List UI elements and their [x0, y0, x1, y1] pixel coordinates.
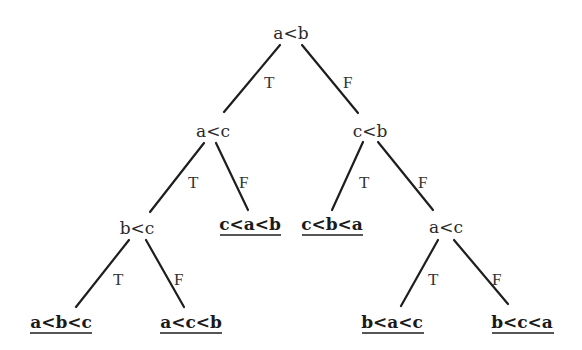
edge-label-f: F	[239, 173, 248, 192]
edge-label-f: F	[174, 270, 183, 289]
node-c-lt-b: c<b	[353, 121, 388, 141]
edge-label-t: T	[264, 73, 275, 92]
edge-label-f: F	[343, 73, 352, 92]
leaf-c-a-b: c<a<b	[219, 214, 281, 234]
leaf-a-c-b: a<c<b	[160, 312, 222, 332]
node-a-lt-c-right: a<c	[429, 217, 463, 237]
leaf-c-b-a: c<b<a	[301, 214, 363, 234]
node-b-lt-c: b<c	[120, 218, 155, 238]
edge-label-t: T	[359, 173, 370, 192]
leaf-a-b-c: a<b<c	[30, 312, 92, 332]
edge-label-t: T	[113, 270, 124, 289]
leaf-b-c-a: b<c<a	[491, 312, 553, 332]
leaf-b-a-c: b<a<c	[361, 312, 423, 332]
decision-tree-diagram: T F T F T F T F T F a<b a<c c<b b<c a<c …	[0, 0, 582, 350]
edge-label-f: F	[418, 173, 427, 192]
edges	[76, 45, 508, 307]
node-a-lt-c: a<c	[196, 121, 230, 141]
edge-labels: T F T F T F T F T F	[113, 73, 501, 289]
node-root: a<b	[273, 23, 308, 43]
edge-label-t: T	[428, 270, 439, 289]
edge-label-f: F	[492, 270, 501, 289]
decision-nodes: a<b a<c c<b b<c a<c	[120, 23, 463, 238]
leaf-nodes: c<a<b c<b<a a<b<c a<c<b b<a<c b<c<a	[30, 214, 554, 333]
edge-label-t: T	[188, 173, 199, 192]
